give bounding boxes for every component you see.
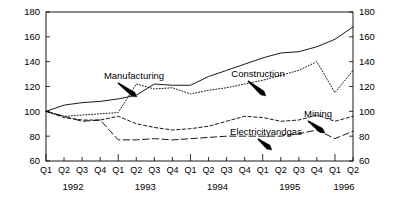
y-tick-left-label: 120 <box>24 81 40 92</box>
annotation-label-manufacturing: Manufacturing <box>104 70 164 81</box>
x-axis-year-labels: 19921993199419951996 <box>63 181 355 192</box>
y-tick-left-label: 60 <box>29 155 40 166</box>
y-tick-right-label: 180 <box>359 6 375 17</box>
y-tick-right-label: 80 <box>359 131 370 142</box>
y-tick-left-label: 100 <box>24 106 40 117</box>
x-tick-quarter-label: Q2 <box>275 165 287 175</box>
x-tick-quarter-label: Q2 <box>58 165 70 175</box>
annotation-label-electricityandgas: Electricityandgas <box>230 126 302 137</box>
x-tick-quarter-label: Q4 <box>166 165 178 175</box>
x-tick-quarter-label: Q1 <box>184 165 196 175</box>
annotation-arrow-construction <box>248 81 266 96</box>
x-tick-quarter-label: Q1 <box>329 165 341 175</box>
x-axis-year-label: 1992 <box>63 181 84 192</box>
plot-frame <box>46 12 353 161</box>
x-tick-quarter-label: Q4 <box>94 165 106 175</box>
chart-container: 6080100120140160180 6080100120140160180 … <box>0 0 399 213</box>
y-tick-left-label: 140 <box>24 56 40 67</box>
x-axis-year-label: 1994 <box>207 181 228 192</box>
data-series-group <box>46 27 353 140</box>
x-tick-quarter-label: Q3 <box>76 165 88 175</box>
y-tick-left-label: 80 <box>29 131 40 142</box>
y-tick-right-label: 140 <box>359 56 375 67</box>
x-axis-quarter-labels: Q1Q2Q3Q4Q1Q2Q3Q4Q1Q2Q3Q4Q1Q2Q3Q4Q1Q2 <box>40 165 359 175</box>
x-axis-year-label: 1993 <box>135 181 156 192</box>
y-tick-left-label: 180 <box>24 6 40 17</box>
series-annotations: ManufacturingConstructionMiningElectrici… <box>104 68 332 150</box>
x-tick-quarter-label: Q4 <box>311 165 323 175</box>
plot-border <box>46 12 353 161</box>
x-tick-quarter-label: Q3 <box>221 165 233 175</box>
annotation-label-mining: Mining <box>304 108 332 119</box>
x-tick-quarter-label: Q1 <box>257 165 269 175</box>
x-tick-quarter-label: Q1 <box>112 165 124 175</box>
x-axis-year-label: 1995 <box>279 181 300 192</box>
y-tick-left-label: 160 <box>24 31 40 42</box>
x-tick-quarter-label: Q3 <box>293 165 305 175</box>
x-tick-quarter-label: Q4 <box>239 165 251 175</box>
x-tick-quarter-label: Q2 <box>347 165 359 175</box>
x-axis-ticks <box>46 154 353 161</box>
x-axis-year-label: 1996 <box>333 181 354 192</box>
x-tick-quarter-label: Q3 <box>148 165 160 175</box>
x-tick-quarter-label: Q2 <box>130 165 142 175</box>
y-tick-right-label: 120 <box>359 81 375 92</box>
annotation-arrow-manufacturing <box>118 83 137 97</box>
annotation-arrow-electricityandgas <box>258 139 272 150</box>
x-tick-quarter-label: Q2 <box>203 165 215 175</box>
annotation-label-construction: Construction <box>231 68 284 79</box>
y-tick-right-label: 60 <box>359 155 370 166</box>
y-tick-right-label: 100 <box>359 106 375 117</box>
x-tick-quarter-label: Q1 <box>40 165 52 175</box>
line-chart: 6080100120140160180 6080100120140160180 … <box>0 0 399 213</box>
y-tick-right-label: 160 <box>359 31 375 42</box>
series-line-construction <box>46 27 353 111</box>
